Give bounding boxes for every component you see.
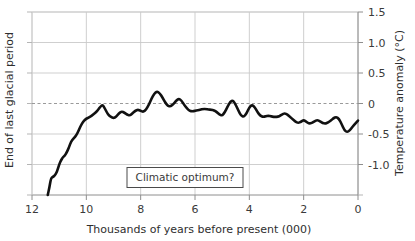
annotation-label: Climatic optimum?: [136, 171, 235, 183]
y-tick-label: 1.0: [368, 37, 386, 50]
x-tick-label: 2: [300, 203, 307, 216]
chart-canvas: 121086420 1.51.00.50-0.5-1.0 Climatic op…: [0, 0, 415, 241]
x-tick-label: 6: [192, 203, 199, 216]
x-tick-label: 12: [25, 203, 39, 216]
x-axis-tick-labels: 121086420: [25, 203, 362, 216]
y-tick-label: 0.5: [368, 67, 386, 80]
x-tick-label: 8: [137, 203, 144, 216]
y-axis-tick-labels: 1.51.00.50-0.5-1.0: [368, 6, 389, 172]
x-tick-label: 4: [246, 203, 253, 216]
x-tick-label: 10: [79, 203, 93, 216]
y-tick-label: -1.0: [368, 159, 389, 172]
y-tick-label: -0.5: [368, 128, 389, 141]
annotation-box: Climatic optimum?: [127, 168, 243, 188]
y-tick-label: 0: [368, 98, 375, 111]
y-tick-label: 1.5: [368, 6, 386, 19]
left-axis-note: End of last glacial period: [3, 32, 16, 168]
x-axis-title: Thousands of years before present (000): [86, 223, 312, 236]
temperature-anomaly-chart: 121086420 1.51.00.50-0.5-1.0 Climatic op…: [0, 0, 415, 241]
y-axis-title: Temperature anomaly (°C): [393, 30, 406, 177]
x-tick-label: 0: [355, 203, 362, 216]
